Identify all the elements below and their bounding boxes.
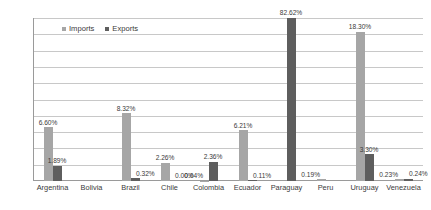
bar-group: 0.04%2.36% xyxy=(189,18,228,181)
x-axis-label: Chile xyxy=(150,183,189,192)
bar-value-label: 1.89% xyxy=(48,158,67,165)
bar-value-label: 2.36% xyxy=(204,154,223,161)
bar-pair: 0.19% xyxy=(306,18,345,181)
bar-pair: 6.60%1.89% xyxy=(33,18,72,181)
bar-imports[interactable]: 0.19% xyxy=(317,179,326,181)
bar-pair: 2.26%0.00% xyxy=(150,18,189,181)
bar-value-label: 0.23% xyxy=(379,172,398,179)
bar-imports[interactable]: 8.32% xyxy=(122,113,131,181)
bar-value-label: 18.30% xyxy=(349,24,371,31)
bar-imports[interactable]: 0.23% xyxy=(395,179,404,181)
bar-group: 18.30%3.30% xyxy=(345,18,384,181)
bar-exports[interactable]: 82.62% xyxy=(287,18,296,181)
bar-exports[interactable]: 0.32% xyxy=(131,178,140,181)
bar-group: 0.19% xyxy=(306,18,345,181)
bar-groups: 6.60%1.89%8.32%0.32%2.26%0.00%0.04%2.36%… xyxy=(33,18,423,181)
bar-imports[interactable]: 2.26% xyxy=(161,163,170,181)
bar-group: 8.32%0.32% xyxy=(111,18,150,181)
bar-imports[interactable]: 6.21% xyxy=(239,130,248,181)
x-axis-label: Argentina xyxy=(33,183,72,192)
bar-pair: 0.04%2.36% xyxy=(189,18,228,181)
bar-group: 82.62% xyxy=(267,18,306,181)
bar-value-label: 82.62% xyxy=(280,10,302,17)
x-axis-label: Venezuela xyxy=(384,183,423,192)
bar-value-label: 6.21% xyxy=(234,123,253,130)
bar-value-label: 6.60% xyxy=(39,120,58,127)
bar-pair: 8.32%0.32% xyxy=(111,18,150,181)
bar-value-label: 0.19% xyxy=(301,172,320,179)
x-axis-label: Uruguay xyxy=(345,183,384,192)
bar-exports[interactable]: 2.36% xyxy=(209,162,218,181)
bar-chart: ImportsExports 6.60%1.89%8.32%0.32%2.26%… xyxy=(0,0,431,210)
bar-value-label: 0.04% xyxy=(184,173,203,180)
bar-group xyxy=(72,18,111,181)
x-axis-label: Peru xyxy=(306,183,345,192)
x-axis-labels: ArgentinaBoliviaBrazilChileColombiaEcuad… xyxy=(33,183,423,192)
bar-imports[interactable]: 18.30% xyxy=(356,32,365,181)
x-axis-label: Paraguay xyxy=(267,183,306,192)
bar-exports[interactable]: 0.11% xyxy=(248,180,257,181)
x-axis-label: Bolivia xyxy=(72,183,111,192)
bar-imports[interactable]: 6.60% xyxy=(44,127,53,181)
bar-value-label: 3.30% xyxy=(360,147,379,154)
bar-pair: 6.21%0.11% xyxy=(228,18,267,181)
bar-pair: 82.62% xyxy=(267,18,306,181)
bar-pair: 0.23%0.24% xyxy=(384,18,423,181)
bar-value-label: 2.26% xyxy=(156,155,175,162)
bar-pair xyxy=(72,18,111,181)
bar-pair: 18.30%3.30% xyxy=(345,18,384,181)
bar-group: 6.21%0.11% xyxy=(228,18,267,181)
bar-value-label: 0.24% xyxy=(409,171,428,178)
x-axis-label: Colombia xyxy=(189,183,228,192)
x-axis-label: Ecuador xyxy=(228,183,267,192)
bar-group: 6.60%1.89% xyxy=(33,18,72,181)
bar-exports[interactable]: 3.30% xyxy=(365,154,374,181)
bar-value-label: 8.32% xyxy=(117,106,136,113)
x-axis-label: Brazil xyxy=(111,183,150,192)
bar-group: 2.26%0.00% xyxy=(150,18,189,181)
bar-group: 0.23%0.24% xyxy=(384,18,423,181)
bar-exports[interactable]: 0.24% xyxy=(404,179,413,181)
bar-exports[interactable]: 1.89% xyxy=(53,166,62,181)
